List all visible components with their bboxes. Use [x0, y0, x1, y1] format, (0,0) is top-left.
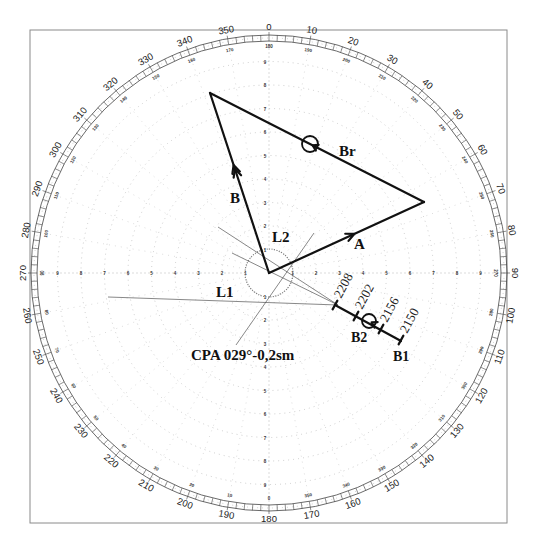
bearing-tick: [399, 76, 402, 81]
bearing-label: 340: [175, 33, 194, 49]
bearing-tick: [157, 478, 160, 483]
reciprocal-bearing-label: 330: [377, 464, 386, 472]
range-axis-label: 4: [264, 177, 267, 182]
bearing-label: 10: [306, 23, 318, 36]
bearing-label: 80: [506, 224, 519, 236]
bearing-tick: [55, 375, 60, 378]
bearing-spoke: [68, 285, 249, 389]
range-axis-label: 8: [456, 271, 459, 276]
tangent-line: [232, 253, 338, 305]
range-axis-label: 5: [264, 389, 267, 394]
bearing-tick: [129, 461, 133, 466]
bearing-tick: [211, 42, 212, 48]
bearing-tick: [474, 161, 479, 164]
bearing-tick: [122, 85, 126, 90]
range-axis-label: 7: [264, 436, 267, 441]
bearing-spoke: [229, 45, 265, 250]
bearing-tick: [244, 36, 245, 42]
bearing-spoke: [289, 157, 470, 261]
track-time-label: 2208: [330, 270, 355, 300]
track-time-ticks: 2208220221562150: [330, 270, 421, 344]
bearing-tick: [59, 382, 64, 385]
label-cpa: CPA 029°-0,2sm: [191, 347, 295, 363]
reciprocal-bearing-label: 0: [268, 496, 271, 501]
bearing-tick: [129, 80, 133, 85]
bearing-spoke: [281, 293, 385, 474]
bearing-tick: [499, 305, 505, 306]
bearing-tick: [500, 297, 506, 298]
vector-arrowheads: [232, 145, 354, 241]
bearing-tick: [76, 409, 81, 413]
bearing-tick: [136, 76, 139, 81]
bearing-label: 150: [382, 476, 401, 493]
bearing-label: 280: [19, 221, 33, 239]
bearing-spoke: [190, 55, 261, 251]
bearing-spoke: [291, 194, 487, 265]
cpa-bearing-line: [236, 233, 314, 345]
bearing-tick: [405, 80, 409, 85]
range-axis-label: 3: [197, 271, 200, 276]
bearing-tick: [392, 470, 395, 475]
bearing-label: 120: [472, 386, 489, 405]
bearing-spoke: [51, 194, 247, 265]
bearing-tick: [412, 85, 416, 90]
bearing-label: 290: [29, 179, 45, 198]
reciprocal-bearing-label: 210: [378, 73, 387, 81]
reciprocal-bearing-label: 40: [120, 442, 127, 449]
reciprocal-bearing-label: 320: [410, 441, 419, 450]
range-axis-label: 8: [264, 83, 267, 88]
bearing-tick: [490, 345, 496, 347]
bearing-spoke: [273, 296, 309, 501]
reciprocal-bearing-label: 200: [342, 57, 351, 64]
range-axis-label: 5: [150, 271, 153, 276]
track-time-label: 2150: [396, 305, 421, 335]
bearing-tick: [356, 52, 358, 58]
reciprocal-bearing-label: 350: [304, 492, 313, 498]
bearing-label: 240: [48, 386, 65, 405]
bearing-tick: [424, 96, 428, 100]
bearing-tick: [43, 191, 51, 194]
bearing-tick: [143, 71, 146, 76]
bearing-spoke: [273, 45, 309, 250]
bearing-spoke: [68, 157, 249, 261]
bearing-tick: [494, 329, 500, 330]
bearing-label: 130: [447, 421, 466, 440]
bearing-tick: [72, 403, 77, 406]
bearing-tick: [490, 199, 496, 201]
bearing-tick: [301, 37, 302, 43]
bearing-tick: [55, 169, 60, 172]
bearing-tick: [172, 485, 174, 490]
bearing-tick: [333, 44, 335, 50]
bearing-tick: [378, 478, 381, 483]
range-axis-label: 7: [432, 271, 435, 276]
bearing-tick: [371, 482, 374, 487]
reciprocal-bearing-label: 340: [342, 481, 351, 488]
reciprocal-bearing-label: 230: [438, 123, 447, 132]
bearing-tick: [72, 140, 77, 143]
bearing-label: 170: [303, 507, 321, 521]
bearing-tick: [499, 240, 505, 241]
reciprocal-bearing-label: 30: [153, 465, 160, 472]
bearing-tick: [220, 40, 221, 46]
bearing-tick: [478, 375, 483, 378]
bearing-tick: [356, 488, 358, 494]
bearing-tick: [399, 465, 402, 470]
bearing-tick: [496, 321, 502, 322]
bearing-tick: [227, 36, 229, 45]
bearing-tick: [165, 482, 168, 487]
bearing-tick: [32, 297, 38, 298]
bearing-label: 140: [417, 451, 436, 470]
bearing-tick: [461, 140, 466, 143]
label-b1: B1: [393, 349, 409, 364]
reciprocal-bearing-label: 60: [70, 382, 77, 389]
range-axis-label: 6: [127, 271, 130, 276]
bearing-tick: [81, 126, 86, 130]
bearing-label: 180: [261, 513, 277, 524]
reciprocal-bearing-label: 240: [461, 155, 469, 164]
range-axis-label: 7: [103, 271, 106, 276]
bearing-spoke: [120, 291, 254, 451]
range-axis-label: 7: [264, 107, 267, 112]
bearing-tick: [348, 47, 351, 55]
bearing-tick: [33, 305, 39, 306]
reciprocal-bearing-label: 170: [226, 47, 235, 53]
